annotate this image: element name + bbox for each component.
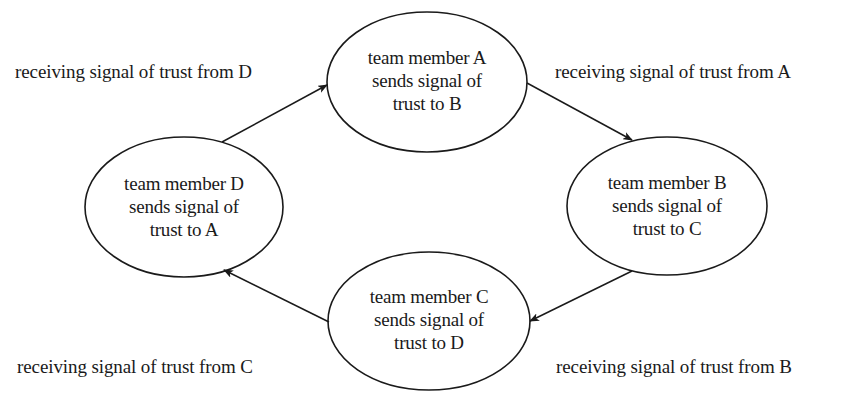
node-b-line-2: sends signal of <box>567 194 767 217</box>
edge-label-from-c: receiving signal of trust from C <box>17 356 253 378</box>
node-b-text: team member B sends signal of trust to C <box>567 171 767 240</box>
node-a-line-2: sends signal of <box>327 69 527 92</box>
node-a-line-3: trust to B <box>327 92 527 115</box>
node-d-text: team member D sends signal of trust to A <box>84 172 284 241</box>
edge-c-to-d-arrow <box>224 270 329 322</box>
node-a-text: team member A sends signal of trust to B <box>327 46 527 115</box>
edge-d-to-a-arrow <box>222 85 327 142</box>
edge-label-from-d: receiving signal of trust from D <box>15 61 252 83</box>
node-c-line-2: sends signal of <box>329 308 529 331</box>
trust-cycle-diagram: team member A sends signal of trust to B… <box>0 0 864 397</box>
node-b-line-1: team member B <box>567 171 767 194</box>
node-b-line-3: trust to C <box>567 217 767 240</box>
node-c-text: team member C sends signal of trust to D <box>329 285 529 354</box>
edge-label-from-b: receiving signal of trust from B <box>556 356 792 378</box>
node-c-line-3: trust to D <box>329 331 529 354</box>
node-a-line-1: team member A <box>327 46 527 69</box>
node-d-line-3: trust to A <box>84 218 284 241</box>
edge-b-to-c-arrow <box>530 271 632 321</box>
node-c-line-1: team member C <box>329 285 529 308</box>
node-d-line-2: sends signal of <box>84 195 284 218</box>
node-d-line-1: team member D <box>84 172 284 195</box>
edge-label-from-a: receiving signal of trust from A <box>555 61 791 83</box>
edge-a-to-b-arrow <box>527 83 632 140</box>
